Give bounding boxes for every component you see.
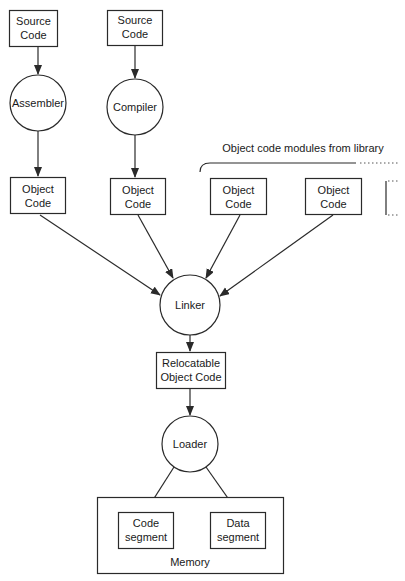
object-code-3-line1: Object bbox=[223, 184, 255, 196]
diagram-canvas: Source Code Source Code Assembler Compil… bbox=[0, 0, 405, 581]
code-segment-line2: segment bbox=[125, 531, 167, 543]
object-code-box-2: Object Code bbox=[111, 179, 166, 215]
object-code-box-3: Object Code bbox=[211, 179, 267, 215]
compiler-node: Compiler bbox=[107, 79, 163, 135]
object-code-box-4: Object Code bbox=[306, 179, 362, 215]
relocatable-line2: Object Code bbox=[160, 371, 221, 383]
loader-label: Loader bbox=[173, 438, 208, 450]
edge-obj2-linker bbox=[138, 215, 173, 278]
data-segment-line2: segment bbox=[217, 531, 259, 543]
object-code-4-line1: Object bbox=[318, 184, 350, 196]
source-code-2-line1: Source bbox=[118, 14, 153, 26]
edge-obj4-linker bbox=[220, 215, 333, 296]
object-code-1-line2: Code bbox=[25, 197, 51, 209]
assembler-node: Assembler bbox=[10, 75, 66, 131]
linker-node: Linker bbox=[160, 275, 220, 335]
compiler-label: Compiler bbox=[113, 101, 157, 113]
source-code-box-2: Source Code bbox=[108, 11, 163, 46]
edge-obj3-linker bbox=[206, 215, 240, 278]
data-segment-line1: Data bbox=[226, 517, 250, 529]
linker-label: Linker bbox=[175, 299, 205, 311]
relocatable-line1: Relocatable bbox=[162, 357, 220, 369]
code-segment-line1: Code bbox=[133, 517, 159, 529]
object-code-4-line2: Code bbox=[320, 198, 346, 210]
assembler-label: Assembler bbox=[12, 97, 64, 109]
source-code-box-1: Source Code bbox=[10, 11, 58, 47]
object-code-box-1: Object Code bbox=[11, 178, 66, 214]
relocatable-object-code-box: Relocatable Object Code bbox=[157, 353, 226, 389]
edge-obj1-linker bbox=[40, 215, 160, 295]
more-modules-indicator bbox=[386, 181, 400, 215]
object-code-2-line2: Code bbox=[125, 198, 151, 210]
object-code-3-line2: Code bbox=[225, 198, 251, 210]
source-code-2-line2: Code bbox=[122, 28, 148, 40]
memory-label: Memory bbox=[170, 556, 210, 568]
data-segment-box: Data segment bbox=[211, 513, 266, 549]
code-segment-box: Code segment bbox=[119, 513, 174, 549]
object-code-2-line1: Object bbox=[122, 184, 154, 196]
source-code-1-line1: Source bbox=[16, 15, 51, 27]
object-code-1-line1: Object bbox=[22, 183, 54, 195]
source-code-1-line2: Code bbox=[20, 29, 46, 41]
library-brace bbox=[200, 163, 356, 172]
library-label: Object code modules from library bbox=[222, 142, 384, 154]
loader-node: Loader bbox=[162, 416, 218, 472]
